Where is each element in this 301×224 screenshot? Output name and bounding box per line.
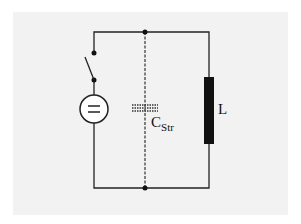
circuit-diagram	[0, 0, 301, 224]
capacitor-label-sub: Str	[161, 121, 174, 133]
inductor-label: L	[218, 101, 227, 118]
capacitor-label-main: C	[151, 114, 161, 130]
wires	[94, 32, 209, 188]
inductor-icon	[204, 77, 214, 144]
switch-icon	[85, 51, 97, 83]
capacitor-label: CStr	[151, 114, 174, 133]
stray-capacitor-icon	[132, 30, 158, 191]
dc-source-icon	[80, 95, 108, 123]
